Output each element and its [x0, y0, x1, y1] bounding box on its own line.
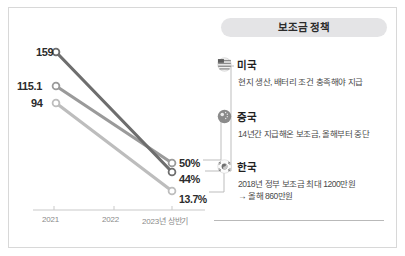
- value-label-usa-start: 159: [36, 46, 53, 58]
- legend-title-label: 보조금 정책: [221, 18, 387, 37]
- data-point-usa-2023: [169, 169, 176, 176]
- chart-svg: [9, 8, 209, 247]
- data-point-china-2023: [169, 160, 176, 167]
- value-label-korea-start: 94: [31, 97, 42, 109]
- infographic-frame: 159 115.1 94 50% 44% 13.7% 2021 2022 202…: [8, 7, 397, 248]
- legend-country-china: 중국: [237, 109, 256, 124]
- value-label-china-start: 115.1: [17, 80, 42, 92]
- legend-divider: [214, 220, 384, 221]
- flag-usa-icon: [217, 57, 232, 72]
- axis-label-2023: 2023년 상반기: [142, 215, 188, 226]
- data-point-usa-2021: [53, 49, 60, 56]
- axis-label-2021: 2021: [42, 215, 59, 224]
- legend-entry-china[interactable]: 중국 14년간 지급해온 보조금, 올해부터 중단: [217, 108, 397, 140]
- legend-entry-korea[interactable]: 한국 2018년 정부 보조금 최대 1200만원 → 올해 860만원: [217, 158, 397, 202]
- legend-country-korea: 한국: [237, 159, 256, 174]
- value-label-china-end: 50%: [179, 157, 200, 169]
- legend-entry-usa[interactable]: 미국 현지 생산, 배터리 조건 충족해야 지급: [217, 56, 397, 88]
- series-line-usa: [56, 52, 172, 172]
- value-label-usa-end: 44%: [179, 173, 200, 185]
- legend-desc-korea: 2018년 정부 보조금 최대 1200만원: [238, 178, 397, 190]
- legend-desc-korea-line2: → 올해 860만원: [238, 190, 397, 202]
- value-label-korea-end: 13.7%: [179, 193, 207, 205]
- flag-korea-icon: [217, 159, 232, 174]
- axis-label-2022: 2022: [102, 215, 119, 224]
- data-point-china-2021: [53, 83, 60, 90]
- legend-country-usa: 미국: [237, 57, 256, 72]
- legend-desc-china: 14년간 지급해온 보조금, 올해부터 중단: [238, 128, 397, 140]
- flag-china-icon: [217, 109, 232, 124]
- series-line-korea: [56, 103, 172, 191]
- legend-panel: 보조금 정책 미국 현지 생산, 배터리 조건 충족해야 지급: [209, 8, 397, 247]
- line-chart-panel: 159 115.1 94 50% 44% 13.7% 2021 2022 202…: [9, 8, 209, 247]
- legend-title-badge: 보조금 정책: [221, 18, 387, 37]
- data-point-korea-2021: [53, 100, 60, 107]
- data-point-korea-2023: [169, 188, 176, 195]
- series-line-china: [56, 86, 172, 163]
- legend-desc-usa: 현지 생산, 배터리 조건 충족해야 지급: [238, 76, 397, 88]
